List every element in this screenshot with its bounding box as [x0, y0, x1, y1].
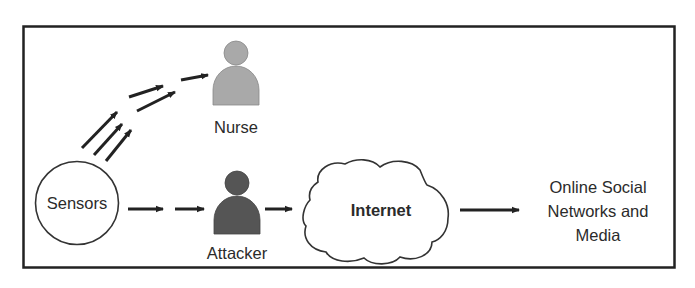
arrow-icon	[82, 112, 117, 148]
person-icon	[213, 41, 259, 105]
osn-label-line-3: Media	[576, 226, 622, 244]
arrow-icon	[106, 130, 131, 161]
arrow-icon	[181, 75, 208, 80]
attacker-label: Attacker	[207, 244, 268, 262]
sensors-node: Sensors	[36, 162, 119, 245]
sensors-to-nurse-arrows	[82, 75, 208, 161]
nurse-label: Nurse	[214, 118, 258, 136]
osn-label-line-2: Networks and	[548, 202, 649, 220]
osn-label-line-1: Online Social	[549, 178, 646, 196]
sensors-label: Sensors	[47, 194, 108, 212]
internet-label: Internet	[351, 201, 412, 219]
arrow-icon	[129, 86, 163, 97]
arrow-icon	[94, 124, 122, 155]
online-social-networks-node: Online Social Networks and Media	[548, 178, 649, 244]
nurse-node: Nurse	[213, 41, 259, 136]
attack-diagram: Sensors Nurse Attacker Internet	[0, 0, 695, 288]
arrow-icon	[137, 92, 175, 111]
person-icon	[214, 171, 260, 234]
attacker-node: Attacker	[207, 171, 268, 262]
internet-node: Internet	[303, 160, 448, 264]
